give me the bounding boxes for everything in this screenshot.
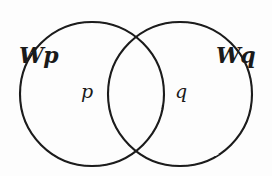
right-region-label: q — [175, 82, 187, 101]
venn-diagram-canvas — [0, 0, 272, 176]
left-set-label: Wp — [19, 44, 58, 66]
venn-diagram-figure: Wp Wq p q — [0, 0, 272, 176]
left-region-label: p — [81, 82, 93, 101]
right-set-label: Wq — [216, 44, 255, 66]
